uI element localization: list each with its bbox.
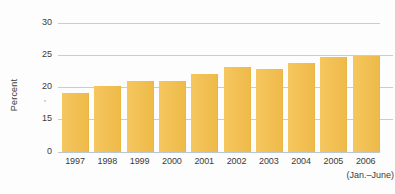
x-axis: 1997199819992000200120022003200420052006…	[58, 156, 395, 194]
bar-2005	[320, 57, 347, 152]
y-tick-label-15: 15	[42, 113, 52, 123]
y-tick-label-25: 25	[42, 49, 52, 59]
x-tick-label-2004: 2004	[285, 156, 318, 167]
x-tick-label-2000: 2000	[155, 156, 188, 167]
bar-1999	[127, 81, 154, 152]
x-axis-sublabel: (Jan.–June)	[346, 170, 394, 181]
tick-stub	[380, 119, 393, 120]
y-tick-label-20: 20	[42, 81, 52, 91]
x-tick-label-1999: 1999	[123, 156, 156, 167]
bar-1997	[62, 93, 89, 152]
y-axis-title: Percent	[9, 60, 19, 130]
bar-2002	[224, 67, 251, 152]
x-tick-label-2006: 2006	[349, 156, 382, 167]
x-tick-label-2003: 2003	[252, 156, 285, 167]
x-tick-label-2005: 2005	[317, 156, 350, 167]
bar-2003	[256, 69, 283, 152]
bar-2004	[288, 63, 315, 152]
x-tick-label-1997: 1997	[59, 156, 92, 167]
tick-stub	[380, 55, 393, 56]
bar-2001	[191, 74, 218, 152]
axis-break-marker-icon	[44, 100, 46, 102]
y-tick-label-30: 30	[42, 17, 52, 27]
tick-stub	[380, 87, 393, 88]
x-tick-label-1998: 1998	[91, 156, 124, 167]
bar-2000	[159, 81, 186, 152]
bar-chart: Percent 015202530 1997199819992000200120…	[0, 0, 395, 194]
gridline-0: 0	[58, 152, 380, 153]
plot-area: 015202530	[58, 0, 395, 153]
gridline-30: 30	[58, 23, 380, 24]
x-tick-label-2001: 2001	[188, 156, 221, 167]
x-tick-label-2002: 2002	[220, 156, 253, 167]
y-tick-label-0: 0	[47, 146, 52, 156]
gridline-25: 25	[58, 55, 380, 56]
bar-2006	[353, 56, 380, 152]
bar-1998	[94, 86, 121, 152]
